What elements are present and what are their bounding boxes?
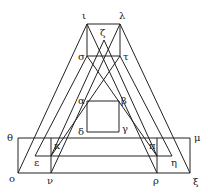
label-eta: η: [171, 157, 177, 168]
label-theta: θ: [7, 132, 13, 143]
label-rho: ρ: [153, 175, 159, 186]
inner-square: [87, 101, 119, 132]
label-epsilon: ε: [34, 157, 39, 168]
edge-lambda-nu: [51, 24, 120, 173]
label-sigma: σ: [78, 51, 85, 62]
label-pi: π: [149, 140, 156, 151]
label-nu: ν: [47, 175, 53, 186]
label-mu: μ: [194, 132, 201, 143]
label-zeta: ζ: [100, 27, 106, 38]
geometry-diagram: ι λ ζ σ τ α β δ γ θ μ κ π ε η ο ν ρ ξ: [0, 0, 208, 195]
edge-zeta-right: [104, 40, 157, 156]
label-xi: ξ: [193, 176, 199, 187]
edge-iota-omicron: [18, 24, 87, 173]
label-beta: β: [121, 95, 127, 106]
label-alpha: α: [78, 95, 85, 106]
label-kappa: κ: [54, 140, 61, 151]
label-omicron: ο: [9, 173, 15, 184]
label-gamma: γ: [122, 123, 128, 134]
label-tau: τ: [123, 51, 129, 62]
label-lambda: λ: [119, 10, 126, 21]
label-iota: ι: [82, 10, 86, 21]
label-delta: δ: [78, 126, 84, 137]
